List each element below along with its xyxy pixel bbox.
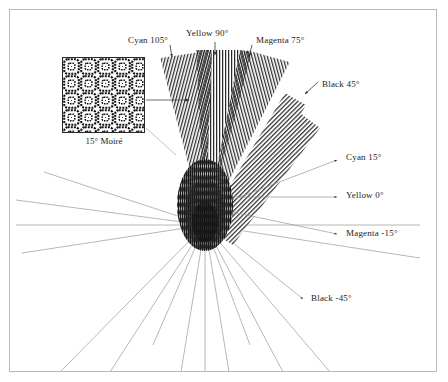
- arrow-black-45: [305, 82, 318, 94]
- label-magenta-75: Magenta 75°: [256, 35, 305, 45]
- moire-caption: 15° Moiré: [62, 136, 146, 146]
- label-yellow-90: Yellow 90°: [186, 28, 228, 38]
- label-yellow-0: Yellow 0°: [346, 190, 384, 200]
- rosette-convergence-core: [177, 159, 233, 251]
- arrow-cyan-105: [170, 45, 172, 57]
- label-black-neg45: Black -45°: [311, 293, 352, 303]
- figure-root: 15° Moiré Cyan 105° Yellow 90° Magenta 7…: [0, 0, 448, 382]
- label-black-45: Black 45°: [322, 79, 360, 89]
- label-cyan-105: Cyan 105°: [128, 35, 168, 45]
- arrow-black-neg45: [232, 242, 303, 299]
- label-cyan-15: Cyan 15°: [346, 152, 381, 162]
- label-magenta-neg15: Magenta -15°: [346, 228, 398, 238]
- moire-rosette-swatch: [62, 57, 145, 133]
- moire-callout-arrow-secondary: [146, 128, 176, 155]
- moire-pattern-graphic: [63, 58, 145, 133]
